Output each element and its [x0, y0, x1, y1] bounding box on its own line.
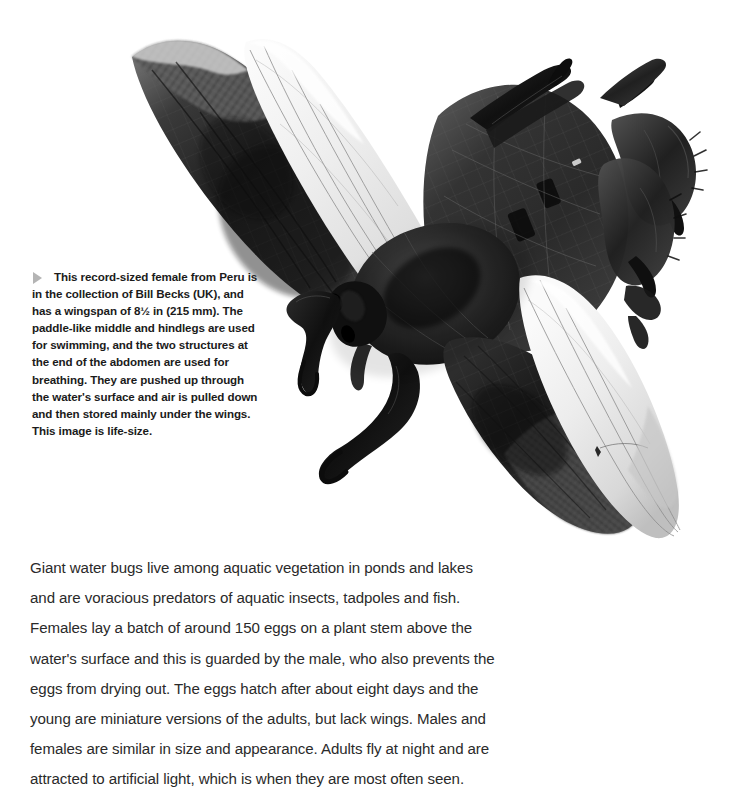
caption-text: This record-sized female from Peru is in… — [32, 268, 260, 439]
figure-caption: This record-sized female from Peru is in… — [32, 268, 260, 439]
body-text-block: Giant water bugs live among aquatic vege… — [30, 553, 500, 791]
body-paragraph: Giant water bugs live among aquatic vege… — [30, 553, 500, 791]
triangle-right-icon — [33, 272, 42, 284]
